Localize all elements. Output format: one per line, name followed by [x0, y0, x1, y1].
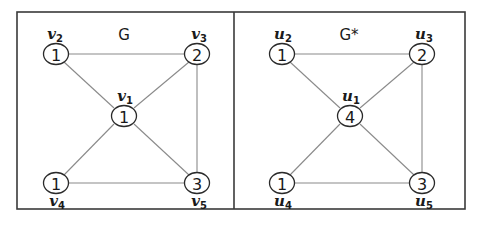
node-value: 1 — [119, 108, 129, 127]
node-v3: 2 v3 — [185, 25, 210, 65]
node-label: u4 — [274, 192, 292, 211]
node-label: u1 — [342, 87, 360, 106]
node-label: v5 — [191, 192, 207, 211]
graph-comparison-diagram: G 1 v2 2 v3 1 v1 1 v4 — [0, 0, 482, 226]
node-u1: 4 u1 — [338, 87, 363, 127]
node-value: 3 — [192, 175, 202, 194]
edge-v1-v4 — [64, 124, 114, 175]
edge-u1-u5 — [360, 124, 414, 175]
node-value: 1 — [277, 46, 287, 65]
node-u4: 1 u4 — [270, 173, 295, 212]
node-v2: 1 v2 — [44, 25, 69, 65]
node-value: 2 — [192, 46, 202, 65]
node-value: 1 — [51, 175, 61, 194]
edge-v2-v1 — [64, 62, 114, 108]
edge-v1-v5 — [134, 124, 189, 175]
outer-frame — [17, 12, 465, 209]
edge-u2-u1 — [290, 62, 340, 108]
node-value: 1 — [51, 46, 61, 65]
edge-u1-u4 — [290, 124, 340, 175]
node-u5: 3 u5 — [410, 173, 435, 212]
node-v4: 1 v4 — [44, 173, 69, 212]
node-label: v3 — [191, 25, 207, 44]
node-v5: 3 v5 — [185, 173, 210, 212]
node-value: 3 — [417, 175, 427, 194]
node-label: u5 — [415, 192, 433, 211]
node-value: 4 — [345, 108, 355, 127]
edge-v3-v1 — [134, 62, 189, 108]
node-label: v1 — [117, 87, 133, 106]
node-u2: 1 u2 — [270, 25, 295, 65]
node-label: u2 — [274, 25, 292, 44]
node-label: v4 — [49, 192, 65, 211]
edge-u3-u1 — [360, 62, 414, 108]
node-value: 1 — [277, 175, 287, 194]
node-label: u3 — [415, 25, 433, 44]
panel-g-star: G* 1 u2 2 u3 4 u1 1 u4 — [270, 25, 435, 211]
graph-title: G* — [339, 26, 359, 44]
node-v1: 1 v1 — [112, 87, 137, 127]
node-u3: 2 u3 — [410, 25, 435, 65]
node-value: 2 — [417, 46, 427, 65]
graph-title: G — [118, 26, 130, 44]
panel-g: G 1 v2 2 v3 1 v1 1 v4 — [44, 25, 210, 211]
node-label: v2 — [47, 25, 63, 44]
